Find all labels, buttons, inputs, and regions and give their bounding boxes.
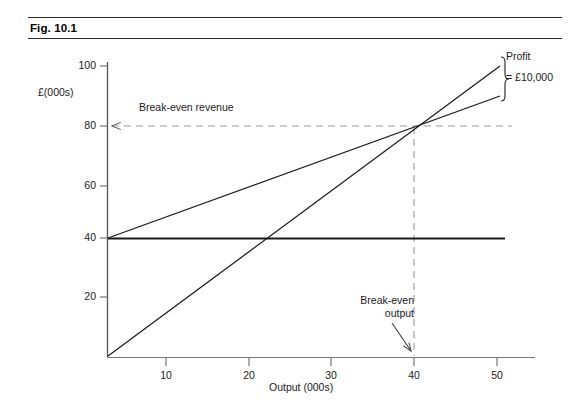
y-tick-label-100: 100: [56, 59, 96, 72]
y-tick-label-20: 20: [56, 290, 96, 303]
figure-container: Fig. 10.1: [0, 0, 584, 411]
x-axis-title: Output (000s): [269, 381, 333, 394]
annotation-profit-line2: = £10,000: [506, 71, 580, 84]
y-axis-ticks: [100, 66, 108, 297]
y-tick-label-80: 80: [56, 119, 96, 132]
breakeven-chart: 100 80 60 40 20 10 20 30 40 50 £(000s) O…: [0, 0, 584, 411]
annotation-break-even-output: Break-even output: [338, 294, 414, 320]
y-tick-label-60: 60: [56, 179, 96, 192]
breakeven-guides: [112, 126, 512, 356]
x-axis-ticks: [166, 358, 497, 367]
breakeven-output-arrow: [392, 323, 411, 351]
y-tick-label-40: 40: [56, 231, 96, 244]
annotation-profit-line1: Profit: [506, 50, 580, 63]
series-total-cost: [108, 96, 500, 238]
x-tick-label-10: 10: [146, 369, 186, 382]
annotation-break-even-output-line2: output: [338, 307, 414, 320]
x-tick-label-20: 20: [229, 369, 269, 382]
x-tick-label-50: 50: [477, 369, 517, 382]
y-axis-title: £(000s): [38, 86, 74, 99]
annotation-profit: Profit = £10,000: [506, 50, 580, 84]
x-tick-label-40: 40: [394, 369, 434, 382]
annotation-break-even-revenue: Break-even revenue: [139, 101, 234, 114]
annotation-break-even-output-line1: Break-even: [360, 294, 414, 306]
